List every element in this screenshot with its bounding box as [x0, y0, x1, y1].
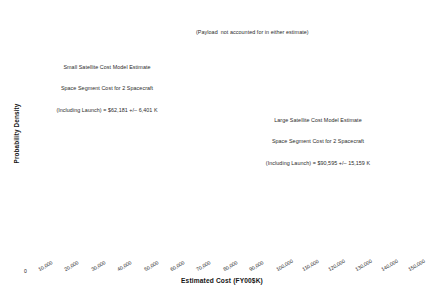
annotation-large-satellite: Large Satellite Cost Model Estimate Spac… — [212, 103, 424, 181]
annotation-payload-note: (Payload not accounted for in either est… — [196, 15, 309, 50]
small-note-line-3: (Including Launch) = $62,181 +/– 6,401 K — [22, 107, 192, 114]
annotation-small-satellite: Small Satellite Cost Model Estimate Spac… — [22, 50, 192, 128]
large-note-line-3: (Including Launch) = $90,595 +/– 15,159 … — [212, 160, 424, 167]
small-note-line-2: Space Segment Cost for 2 Spacecraft — [22, 85, 192, 92]
large-note-line-2: Space Segment Cost for 2 Spacecraft — [212, 138, 424, 145]
figure-canvas: (Payload not accounted for in either est… — [0, 0, 444, 298]
y-axis-title: Probability Density — [13, 79, 20, 189]
large-note-line-1: Large Satellite Cost Model Estimate — [212, 117, 424, 124]
small-note-line-1: Small Satellite Cost Model Estimate — [22, 64, 192, 71]
x-tick-label-0: 0 — [24, 268, 27, 274]
payload-note-line-1: (Payload not accounted for in either est… — [196, 29, 309, 36]
x-axis-title: Estimated Cost (FY00$K) — [0, 277, 444, 284]
curve-large-satellite — [27, 192, 423, 261]
